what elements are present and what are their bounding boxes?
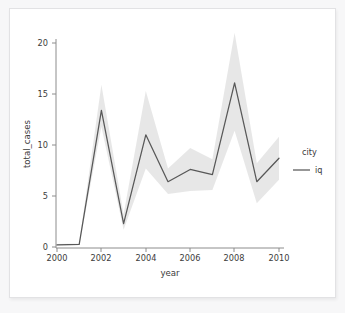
x-axis-ticks [57, 248, 279, 252]
legend-title: city [302, 147, 317, 157]
x-axis-tick-labels: 2000 2002 2004 2006 2008 2010 [47, 253, 290, 263]
y-axis-tick-labels: 20 15 10 5 0 [38, 38, 48, 252]
y-axis-title: total_cases [22, 119, 32, 168]
legend-label-iq[interactable]: iq [315, 165, 322, 175]
y-tick-label-0: 0 [43, 242, 48, 252]
y-tick-label-15: 15 [38, 89, 48, 99]
legend: city iq [293, 147, 322, 175]
plot-area: 20 15 10 5 0 2000 [10, 9, 337, 299]
x-tick-label-2008: 2008 [224, 253, 245, 263]
chart-screenshot: 20 15 10 5 0 2000 [0, 0, 345, 313]
x-tick-label-2004: 2004 [136, 253, 157, 263]
line-chart-svg: 20 15 10 5 0 2000 [10, 9, 337, 299]
x-tick-label-2000: 2000 [47, 253, 68, 263]
y-tick-label-5: 5 [43, 191, 48, 201]
x-tick-label-2002: 2002 [91, 253, 112, 263]
figure-card: 20 15 10 5 0 2000 [9, 8, 336, 298]
x-axis-title: year [160, 268, 180, 278]
x-tick-label-2006: 2006 [180, 253, 201, 263]
confidence-band-iq [57, 33, 279, 246]
y-tick-label-20: 20 [38, 38, 48, 48]
y-tick-label-10: 10 [38, 140, 48, 150]
y-axis-ticks [52, 43, 56, 247]
x-tick-label-2010: 2010 [269, 253, 290, 263]
